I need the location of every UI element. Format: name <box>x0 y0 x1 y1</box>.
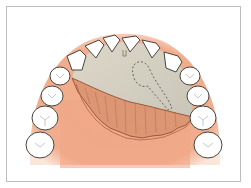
tooth <box>194 132 222 158</box>
tooth <box>190 106 216 130</box>
tooth <box>50 67 70 85</box>
tooth <box>187 86 209 106</box>
tooth <box>32 106 58 130</box>
tooth <box>41 86 63 106</box>
tooth <box>26 132 54 158</box>
tooth <box>180 67 200 85</box>
dental-arch-illustration <box>0 0 251 188</box>
